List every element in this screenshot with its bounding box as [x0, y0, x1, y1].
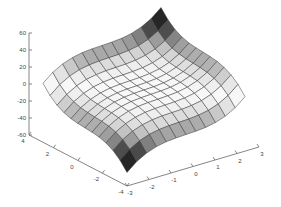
x-tick [235, 151, 237, 154]
x-tick-label: 2 [238, 158, 242, 164]
z-tick-label: -40 [17, 115, 26, 121]
x-tick [257, 144, 259, 147]
x-tick [191, 164, 193, 167]
x-tick [147, 177, 149, 180]
y-tick-label: -4 [118, 189, 124, 195]
surface-mesh [43, 8, 245, 173]
y-tick [78, 158, 80, 161]
x-tick-label: 3 [260, 151, 264, 157]
z-tick-label: 0 [23, 81, 27, 87]
x-tick [213, 157, 215, 160]
x-tick [169, 170, 171, 173]
y-tick-label: -2 [94, 176, 100, 182]
x-tick-label: -3 [127, 190, 133, 196]
y-tick-label: 2 [46, 151, 50, 157]
x-tick-label: 1 [216, 164, 220, 170]
surface-plot: 6040200-20-40-60420-2-4-3-2-10123 [0, 0, 281, 207]
z-tick-label: -20 [17, 98, 26, 104]
y-tick [103, 170, 105, 173]
z-tick-label: 20 [19, 64, 26, 70]
y-tick-label: 0 [70, 164, 74, 170]
x-tick-label: -2 [149, 184, 155, 190]
x-tick-label: -1 [171, 177, 177, 183]
z-tick-label: 60 [19, 30, 26, 36]
y-tick-label: 4 [21, 138, 25, 144]
x-tick-label: 0 [194, 171, 198, 177]
y-tick [54, 145, 56, 148]
z-tick-label: 40 [19, 47, 26, 53]
